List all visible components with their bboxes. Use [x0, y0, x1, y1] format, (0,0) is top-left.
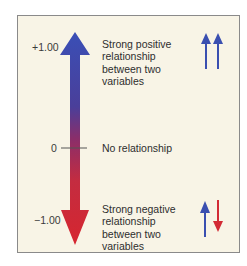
negative-description: Strong negative relationship between two…	[102, 203, 192, 252]
scale-zero-label: 0	[51, 142, 57, 154]
no-relationship-description: No relationship	[102, 142, 222, 154]
scale-double-arrow-icon	[60, 32, 90, 245]
scale-bottom-label: −1.00	[34, 214, 61, 226]
two-up-arrows-icon	[201, 33, 223, 69]
positive-description: Strong positive relationship between two…	[102, 38, 192, 87]
up-and-down-arrows-icon	[200, 200, 223, 237]
scale-top-label: +1.00	[32, 41, 59, 53]
